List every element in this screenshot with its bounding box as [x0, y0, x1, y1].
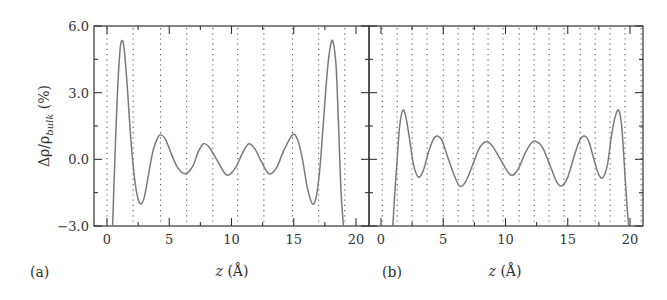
x-tick-label: 10 — [497, 232, 514, 247]
x-tick-label: 0 — [377, 232, 385, 247]
x-tick-label: 15 — [559, 232, 576, 247]
panel-a: 05101520−3.00.03.06.0 — [57, 19, 369, 247]
x-tick-label: 5 — [165, 232, 173, 247]
y-tick-label: 0.0 — [68, 152, 89, 167]
x-tick-label: 5 — [439, 232, 447, 247]
x-tick-label: 20 — [622, 232, 639, 247]
density-curve — [113, 40, 344, 226]
x-tick-label: 15 — [285, 232, 302, 247]
panel-label-b: (b) — [382, 264, 402, 280]
figure: Δρ/ρbulk (%) 05101520−3.00.03.06.0 05101… — [0, 0, 667, 300]
density-curve — [393, 110, 629, 226]
axes-frame — [94, 26, 369, 226]
x-tick-label: 10 — [223, 232, 240, 247]
x-tick-label: 0 — [103, 232, 111, 247]
y-axis-label: Δρ/ρbulk (%) — [36, 85, 55, 167]
x-tick-label: 20 — [348, 232, 365, 247]
axes-frame — [369, 26, 643, 226]
x-axis-label-a: z (Å) — [215, 262, 249, 279]
y-tick-label: 3.0 — [68, 86, 89, 101]
y-tick-label: −3.0 — [57, 219, 89, 234]
panel-b: 05101520 — [369, 26, 643, 247]
panel-label-a: (a) — [30, 264, 49, 280]
x-axis-label-b: z (Å) — [488, 262, 522, 279]
y-tick-label: 6.0 — [68, 19, 89, 34]
